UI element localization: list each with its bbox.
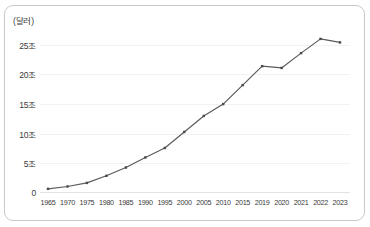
- x-tick-label: 2020: [274, 198, 289, 207]
- data-point-marker: [319, 38, 321, 40]
- data-point-marker: [222, 103, 224, 105]
- data-point-marker: [261, 65, 263, 67]
- x-tick-label: 2015: [235, 198, 250, 207]
- x-tick-label: 1995: [157, 198, 172, 207]
- data-point-marker: [86, 182, 88, 184]
- data-point-marker: [183, 131, 185, 133]
- data-point-marker: [105, 175, 107, 177]
- data-point-marker: [241, 84, 243, 86]
- x-tick-label: 2019: [255, 198, 270, 207]
- series-line-chart: [40, 30, 350, 193]
- x-tick-label: 1990: [138, 198, 153, 207]
- x-tick-label: 2023: [333, 198, 348, 207]
- x-tick-label: 2022: [313, 198, 328, 207]
- y-tick-label: 5조: [4, 157, 36, 169]
- y-tick-label: 15조: [4, 98, 36, 110]
- data-point-marker: [339, 41, 341, 43]
- x-tick-label: 1980: [99, 198, 114, 207]
- x-tick-label: 2021: [294, 198, 309, 207]
- y-tick-label: 20조: [4, 68, 36, 80]
- y-axis-unit-label: (달러): [13, 14, 34, 26]
- y-tick-label: 10조: [4, 128, 36, 140]
- data-point-marker: [47, 188, 49, 190]
- series-markers: [47, 38, 341, 190]
- x-tick-label: 2005: [196, 198, 211, 207]
- series-path: [48, 39, 340, 189]
- x-tick-label: 1985: [118, 198, 133, 207]
- data-point-marker: [203, 115, 205, 117]
- y-tick-label: 25조: [4, 39, 36, 51]
- y-axis-tick-labels: 05조10조15조20조25조: [2, 30, 36, 193]
- data-point-marker: [125, 166, 127, 168]
- x-tick-label: 1970: [60, 198, 75, 207]
- data-point-marker: [66, 185, 68, 187]
- plot-area: [40, 30, 350, 193]
- x-tick-label: 2010: [216, 198, 231, 207]
- chart-figure: (달러) 05조10조15조20조25조 1965197019751980198…: [0, 0, 370, 227]
- x-tick-label: 1965: [41, 198, 56, 207]
- data-point-marker: [300, 52, 302, 54]
- x-tick-label: 1975: [80, 198, 95, 207]
- data-point-marker: [164, 147, 166, 149]
- data-point-marker: [280, 67, 282, 69]
- x-axis-tick-labels: 1965197019751980198519901995200020052010…: [40, 198, 350, 212]
- data-point-marker: [144, 156, 146, 158]
- y-tick-label: 0: [4, 188, 36, 198]
- x-tick-label: 2000: [177, 198, 192, 207]
